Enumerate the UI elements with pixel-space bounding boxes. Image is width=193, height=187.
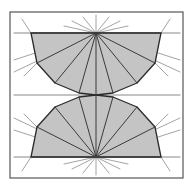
geometric-figure-svg bbox=[0, 0, 193, 187]
geometric-figure-container bbox=[0, 0, 193, 187]
